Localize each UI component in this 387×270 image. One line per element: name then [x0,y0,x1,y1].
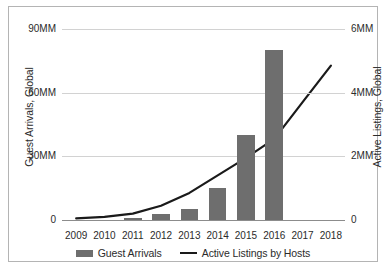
chart-legend: Guest Arrivals Active Listings by Hosts [9,247,377,259]
x-axis-tick-2009: 2009 [61,231,91,241]
y-axis-right-tick: 6MM [351,24,387,34]
y-axis-right-title: Active Listings, Global [371,37,383,197]
y-axis-right-tick-mark [337,156,345,157]
bar-2015 [237,135,255,220]
gridline-90MM [62,29,345,30]
y-axis-right-tick-mark [337,93,345,94]
legend-label-guest-arrivals: Guest Arrivals [98,247,162,259]
active-listings-line [76,66,331,219]
chart-container: Guest Arrivals, Global Active Listings, … [8,6,378,262]
legend-label-active-listings: Active Listings by Hosts [202,247,310,259]
x-axis-tick-2010: 2010 [89,231,119,241]
y-axis-right-tick: 4MM [351,88,387,98]
line-swatch-icon [180,252,197,254]
x-axis-tick-2018: 2018 [316,231,346,241]
plot-area: 90MM60MM30MM06MM4MM2MM0 [62,16,345,227]
legend-item-active-listings: Active Listings by Hosts [180,247,310,259]
y-axis-right-tick: 2MM [351,151,387,161]
x-axis-tick-2012: 2012 [146,231,176,241]
y-axis-right-tick-mark [337,29,345,30]
gridline-30MM [62,156,345,157]
bar-2014 [209,188,227,220]
gridline-0 [62,220,345,221]
x-axis-labels: 2009201020112012201320142015201620172018 [62,231,345,245]
bar-2016 [265,50,283,220]
bar-2011 [124,218,142,220]
x-axis-tick-2014: 2014 [203,231,233,241]
y-axis-left-tick: 90MM [0,24,56,34]
x-axis-tick-2016: 2016 [259,231,289,241]
line-series-layer [62,16,345,227]
x-axis-tick-2017: 2017 [288,231,318,241]
bar-2013 [181,209,199,220]
x-axis-tick-2011: 2011 [118,231,148,241]
y-axis-right-tick: 0 [351,215,387,225]
x-axis-tick-2015: 2015 [231,231,261,241]
bar-2012 [152,214,170,220]
y-axis-left-tick: 60MM [0,88,56,98]
y-axis-left-tick: 0 [0,215,56,225]
gridline-60MM [62,93,345,94]
y-axis-left-tick: 30MM [0,151,56,161]
x-axis-tick-2013: 2013 [174,231,204,241]
bar-swatch-icon [76,250,93,257]
y-axis-left-title: Guest Arrivals, Global [23,37,35,197]
y-axis-right-tick-mark [337,220,345,221]
legend-item-guest-arrivals: Guest Arrivals [76,247,162,259]
